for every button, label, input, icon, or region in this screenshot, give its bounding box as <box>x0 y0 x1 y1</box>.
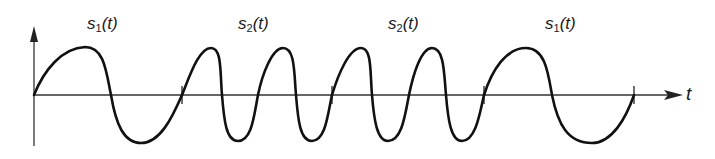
segment-label-4: s1(t) <box>545 14 576 34</box>
segment-label-2: s2(t) <box>238 14 269 34</box>
x-axis-label: t <box>686 83 691 105</box>
segment-label-1: s1(t) <box>87 14 118 34</box>
y-axis-arrow-icon <box>30 26 38 42</box>
segment-label-3: s2(t) <box>388 14 419 34</box>
